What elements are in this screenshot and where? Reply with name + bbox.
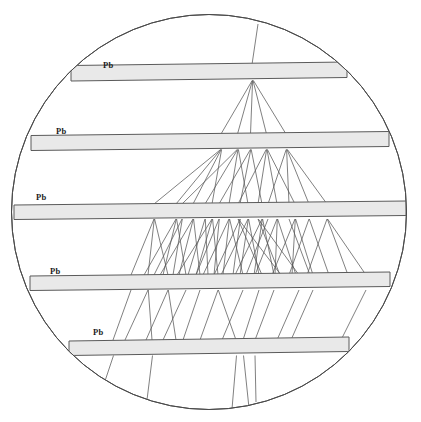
- plate-label-plate-4: Pb: [50, 266, 60, 276]
- cloud-chamber-diagram: PbPbPbPbPb: [0, 0, 421, 422]
- plate-label-plate-2: Pb: [56, 126, 66, 136]
- plate-label-plate-1: Pb: [103, 60, 113, 70]
- plate-label-plate-3: Pb: [36, 192, 46, 202]
- cascade-shower-figure: PbPbPbPbPb: [0, 0, 421, 422]
- plate-label-plate-5: Pb: [93, 327, 103, 337]
